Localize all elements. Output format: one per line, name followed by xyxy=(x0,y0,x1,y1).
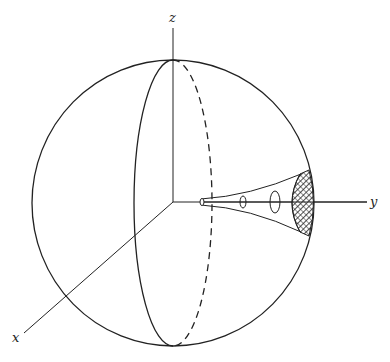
meridian-back-dashed xyxy=(173,60,212,346)
cone-lower-edge xyxy=(201,205,301,232)
x-axis xyxy=(24,202,173,333)
z-axis-label: z xyxy=(168,10,176,25)
sphere-cone-diagram: z y x xyxy=(0,0,390,362)
y-axis-label: y xyxy=(369,194,378,209)
x-axis-label: x xyxy=(12,330,20,345)
hatched-cap-overlay xyxy=(292,170,314,236)
cone-upper-edge xyxy=(201,174,301,199)
cone-section-small xyxy=(200,199,204,206)
meridian-front xyxy=(134,60,173,346)
